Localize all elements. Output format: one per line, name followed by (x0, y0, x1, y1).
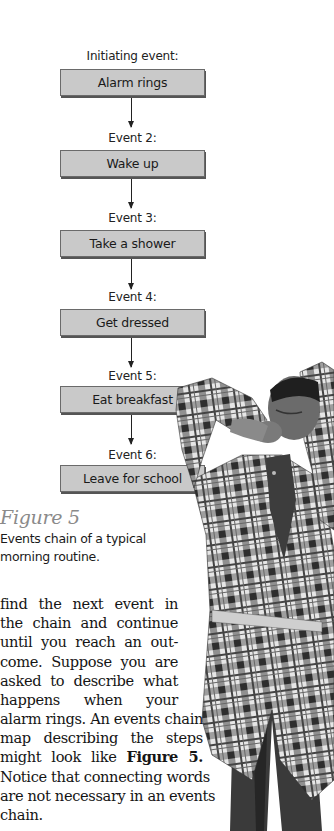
event-box-take-shower: Take a shower (60, 230, 205, 257)
body-line: chain. (0, 805, 203, 824)
event-label-initiating: Initiating event: (60, 49, 205, 63)
event-label-4: Event 4: (60, 290, 205, 304)
body-line-text: might look like (0, 748, 116, 765)
event-box-wake-up: Wake up (60, 150, 205, 177)
body-line: until you reach an out- (0, 632, 178, 651)
body-paragraph-narrow: find the next event in the chain and con… (0, 594, 178, 709)
body-line: map describing the steps (0, 728, 203, 747)
figure-reference: Figure 5. (126, 748, 203, 765)
figure-caption: Events chain of a typical morning routin… (0, 530, 190, 566)
body-line-with-ref: might look like Figure 5. (0, 747, 203, 766)
arrow-down-icon (131, 98, 132, 127)
arrow-down-icon (131, 338, 132, 367)
event-box-alarm-rings: Alarm rings (60, 69, 205, 96)
body-line: happens when your (0, 690, 178, 709)
body-line: Notice that connecting words (0, 767, 203, 786)
figure-title: Figure 5 (0, 506, 80, 528)
body-line: find the next event in (0, 594, 178, 613)
body-line: the chain and continue (0, 613, 178, 632)
event-box-get-dressed: Get dressed (60, 309, 205, 336)
body-line: alarm rings. An events chain (0, 709, 203, 728)
arrow-down-icon (131, 179, 132, 208)
arrow-down-icon (131, 259, 132, 289)
event-label-2: Event 2: (60, 131, 205, 145)
body-line: come. Suppose you are (0, 652, 178, 671)
caption-line: Events chain of a typical (0, 530, 190, 548)
body-line: asked to describe what (0, 671, 178, 690)
arrow-down-icon (131, 415, 132, 444)
event-label-3: Event 3: (60, 211, 205, 225)
body-line: are not necessary in an events (0, 786, 203, 805)
body-paragraph-wide: alarm rings. An events chain map describ… (0, 709, 203, 824)
caption-line: morning routine. (0, 548, 190, 566)
